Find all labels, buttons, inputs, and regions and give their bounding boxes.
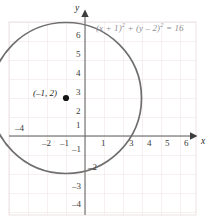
y-tick-label-1: 1 [76, 121, 81, 130]
x-tick-label-3: 3 [129, 139, 134, 148]
x-tick-label-4: 4 [147, 139, 152, 148]
y-tick-label-5: 5 [76, 50, 81, 59]
y-tick-label--1: –1 [72, 145, 81, 154]
equation-lhs-y: (y – 2) [136, 23, 160, 33]
grid-background [9, 22, 196, 215]
x-tick-label-1: 1 [101, 139, 106, 148]
x-tick-label--2: –2 [42, 139, 51, 148]
curve-equation-label: (x + 1)2 + (y – 2)2 = 16 [96, 24, 184, 33]
y-axis-name: y [75, 4, 79, 14]
x-tick-label-5: 5 [165, 139, 170, 148]
x-tick-label--4: –4 [15, 124, 24, 133]
center-point-marker [63, 95, 69, 101]
y-tick-label--3: –3 [72, 182, 81, 191]
circle-graph-figure: (x + 1)2 + (y – 2)2 = 16 (–1, 2) x y –4 … [0, 0, 218, 223]
x-tick-label--1: –1 [60, 139, 69, 148]
y-tick-label-2: 2 [76, 107, 81, 116]
center-point-label: (–1, 2) [33, 89, 57, 98]
y-tick-label--4: –4 [72, 200, 81, 209]
y-tick-label--2: –2 [88, 163, 97, 172]
y-tick-label-3: 3 [76, 88, 81, 97]
x-axis-name: x [201, 137, 205, 147]
x-tick-label-6: 6 [184, 139, 189, 148]
equation-plus: + [125, 23, 136, 33]
y-tick-label-6: 6 [76, 31, 81, 40]
coordinate-plane-svg [0, 0, 218, 223]
y-tick-label-4: 4 [76, 69, 81, 78]
equation-lhs-x: (x + 1) [96, 23, 122, 33]
equation-rhs: = 16 [164, 23, 184, 33]
